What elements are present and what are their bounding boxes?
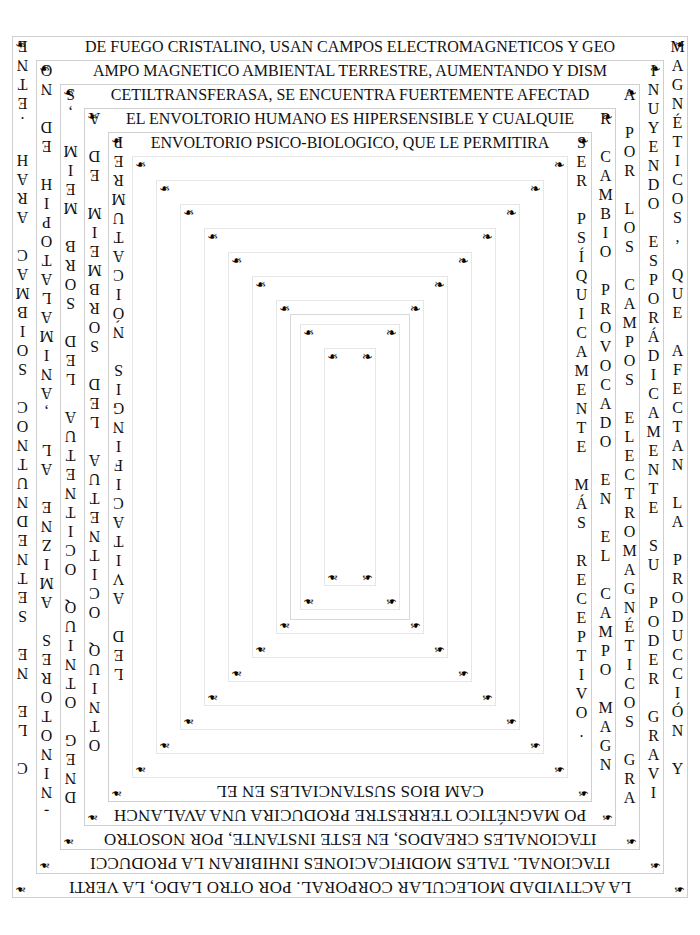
ring-2-left-char-23: I <box>61 522 80 541</box>
ring-0-right-char-27: P <box>668 550 687 569</box>
ring-0-left-char-28: T <box>13 569 32 588</box>
ring-2-right-char-28: É <box>620 617 639 636</box>
ring-2-left-char-6: M <box>61 199 80 218</box>
ring-1-left-char-7: I <box>37 194 56 213</box>
ring-4-left-char-5: T <box>109 228 128 247</box>
ring-2-right-char-24: M <box>620 541 639 560</box>
ring-3-right-char-32: A <box>596 717 615 736</box>
ring-8-right-text <box>476 229 495 705</box>
ring-0-left-char-33: N <box>13 664 32 683</box>
ring-3-left-char-12: S <box>85 337 104 356</box>
ring-10-left-text <box>253 277 272 657</box>
ring-2-right-char-8: S <box>620 237 639 256</box>
ring-2-left-char-12 <box>61 313 80 332</box>
ring-1-left-char-8: P <box>37 213 56 232</box>
ring-4-right-text: SER PSÍQUICAMENTE MÁS RECEPTIVO. <box>572 133 591 801</box>
ring-2-left-char-18: U <box>61 427 80 446</box>
ring-5-top-text <box>133 157 567 176</box>
ring-0-right-char-7: C <box>668 170 687 189</box>
ring-3-left-char-1 <box>85 128 104 147</box>
ring-1-right-char-6: D <box>644 175 663 194</box>
ring-4-left-char-1: E <box>109 152 128 171</box>
ring-0-right-char-26 <box>668 531 687 550</box>
ring-0-left-char-17: S <box>13 360 32 379</box>
ring-3-right-char-1 <box>596 128 615 147</box>
ring-0-right-char-13: U <box>668 284 687 303</box>
ring-3-left-char-18: A <box>85 451 104 470</box>
ring-3-right-char-17: O <box>596 432 615 451</box>
ring-4-left-char-25 <box>109 608 128 627</box>
ring-3-left-char-26: O <box>85 603 104 622</box>
ring-0-left-char-26: E <box>13 531 32 550</box>
ring-4-left-char-17: F <box>109 456 128 475</box>
ring-4-left-char-12: S <box>109 361 128 380</box>
ring-4-right-char-4: P <box>572 209 591 228</box>
ring-1-left-char-23: E <box>37 498 56 517</box>
ring-4-right-char-23: E <box>572 570 591 589</box>
ring-2-left-char-30: N <box>61 655 80 674</box>
ring-1-right-char-19: M <box>644 422 663 441</box>
ring-1-right-char-8 <box>644 213 663 232</box>
ring-2-left-char-36: N <box>61 769 80 788</box>
ring-4-left-char-9: Ó <box>109 304 128 323</box>
ring-1-right-char-35: R <box>644 726 663 745</box>
ring-3-left-char-28: Q <box>85 641 104 660</box>
ring-4-left-char-8: I <box>109 285 128 304</box>
ring-3-left-char-34 <box>85 755 104 774</box>
ring-3-left-char-24: I <box>85 565 104 584</box>
ring-2-right-char-3: O <box>620 142 639 161</box>
ring-0-right-char-19: C <box>668 398 687 417</box>
ring-1-left-char-26: I <box>37 555 56 574</box>
ring-3-right-char-29: O <box>596 660 615 679</box>
ring-3-right-char-20: N <box>596 489 615 508</box>
ring-1-right-char-2: U <box>644 99 663 118</box>
ring-6-top-text <box>157 181 543 200</box>
ring-3-right-char-31: M <box>596 698 615 717</box>
ring-4-left-char-3: M <box>109 190 128 209</box>
ring-3-left-char-32: T <box>85 717 104 736</box>
ring-4-right-char-13: E <box>572 380 591 399</box>
ring-3-left-char-4 <box>85 185 104 204</box>
ring-0-right-char-3: N <box>668 94 687 113</box>
ring-2-left-char-17: A <box>61 408 80 427</box>
ring-2-left-char-19: T <box>61 446 80 465</box>
ring-1-right-char-37: V <box>644 764 663 783</box>
ring-2-left-char-22: T <box>61 503 80 522</box>
ring-2-left-char-14: E <box>61 351 80 370</box>
ring-0-right-char-24: L <box>668 493 687 512</box>
ring-1-right-char-30: D <box>644 631 663 650</box>
ring-4-left-char-22: I <box>109 551 128 570</box>
ring-4-left-char-7: C <box>109 266 128 285</box>
ring-8-top-text <box>205 229 495 248</box>
ring-1-right-char-36: A <box>644 745 663 764</box>
ring-4-right-char-10: C <box>572 323 591 342</box>
ring-2-left-char-29: I <box>61 636 80 655</box>
ring-1-right-char-38: I <box>644 783 663 802</box>
ring-3-left-char-5: M <box>85 204 104 223</box>
ring-3-right-char-4: M <box>596 185 615 204</box>
ring-3-right-char-12: V <box>596 337 615 356</box>
ring-4-right-char-18: M <box>572 475 591 494</box>
ring-4-right-char-7: Q <box>572 266 591 285</box>
ring-2-left-char-27: Q <box>61 598 80 617</box>
ring-1-right-char-33 <box>644 688 663 707</box>
ring-3-left-char-9: B <box>85 280 104 299</box>
ring-2-left-char-8: B <box>61 237 80 256</box>
ring-2-left-char-10: O <box>61 275 80 294</box>
ring-3-left-char-6: I <box>85 223 104 242</box>
ring-0-left-char-5 <box>13 132 32 151</box>
ring-0-left-char-37 <box>13 740 32 759</box>
ring-1-left-char-4: E <box>37 137 56 156</box>
ring-3-left-char-0: A <box>85 109 104 128</box>
ring-0-bottom-text: LA ACTIVIDAD MOLECULAR CORPORAL. POR OTR… <box>13 878 687 897</box>
ring-0-left-char-25: D <box>13 512 32 531</box>
ring-3-left-char-13 <box>85 356 104 375</box>
ring-4-right-char-11: A <box>572 342 591 361</box>
ring-0-right-char-9: S <box>668 208 687 227</box>
ring-4-right-char-20: S <box>572 513 591 532</box>
ring-0-left-char-30: S <box>13 607 32 626</box>
ring-3-right-char-6: I <box>596 223 615 242</box>
ring-1-left-char-6: H <box>37 175 56 194</box>
ring-2-left-char-21: N <box>61 484 80 503</box>
ring-1-right-char-32: R <box>644 669 663 688</box>
